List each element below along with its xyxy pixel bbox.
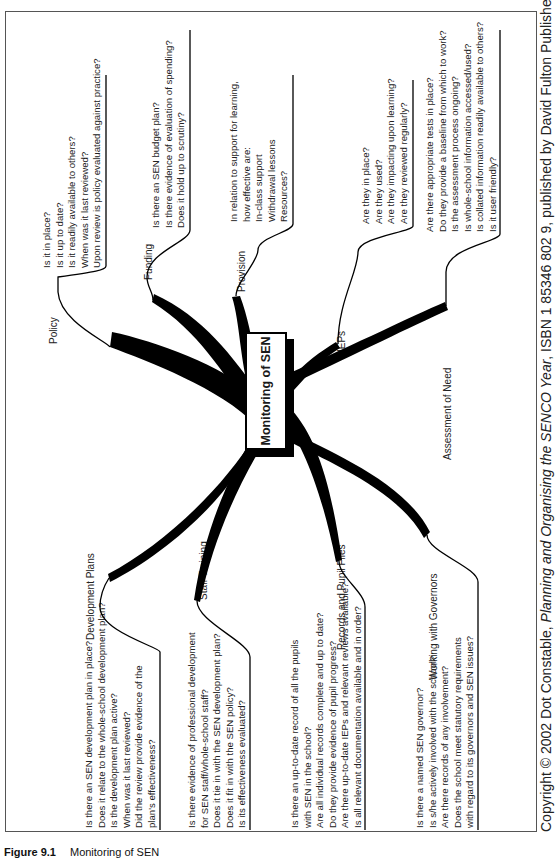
rotated-figure: Monitoring of SEN Policy Funding Provisi… [0,0,558,862]
figure-title: Monitoring of SEN [70,846,159,858]
figure-caption: Figure 9.1Monitoring of SEN [4,846,159,858]
center-node: Monitoring of SEN [245,332,287,450]
figure-number: Figure 9.1 [4,846,56,858]
